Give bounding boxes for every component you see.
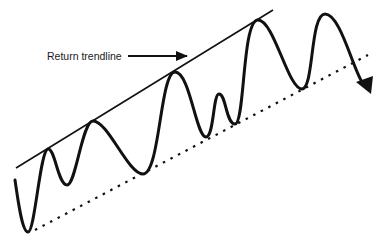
trend-channel-diagram: Return trendline [0, 0, 378, 247]
return-trendline-label: Return trendline [47, 50, 122, 62]
return-trendline [16, 10, 273, 168]
support-trendline [35, 55, 368, 230]
price-path [15, 14, 362, 232]
